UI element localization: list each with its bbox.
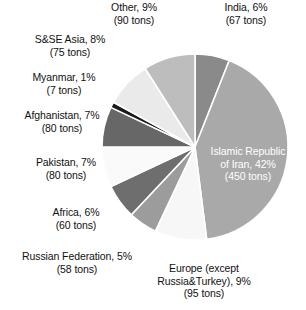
callout-label-russian-federation: Russian Federation, 5% (58 tons) bbox=[6, 250, 148, 275]
callout-label-africa: Africa, 6% (60 tons) bbox=[24, 206, 128, 231]
pie-chart-figure: Other, 9% (90 tons) India, 6% (67 tons) … bbox=[0, 0, 306, 310]
callout-label-other: Other, 9% (90 tons) bbox=[82, 1, 186, 26]
callout-label-islamic-republic-of-iran: Islamic Republic of Iran, 42% (450 tons) bbox=[196, 145, 300, 183]
callout-label-myanmar: Myanmar, 1% (7 tons) bbox=[6, 71, 122, 96]
callout-label-ssea: S&SE Asia, 8% (75 tons) bbox=[10, 33, 130, 58]
callout-label-europe: Europe (except Russia&Turkey), 9% (95 to… bbox=[142, 262, 266, 300]
callout-label-pakistan: Pakistan, 7% (80 tons) bbox=[10, 156, 122, 181]
callout-label-india: India, 6% (67 tons) bbox=[196, 1, 296, 26]
callout-label-afghanistan: Afghanistan, 7% (80 tons) bbox=[0, 109, 124, 134]
